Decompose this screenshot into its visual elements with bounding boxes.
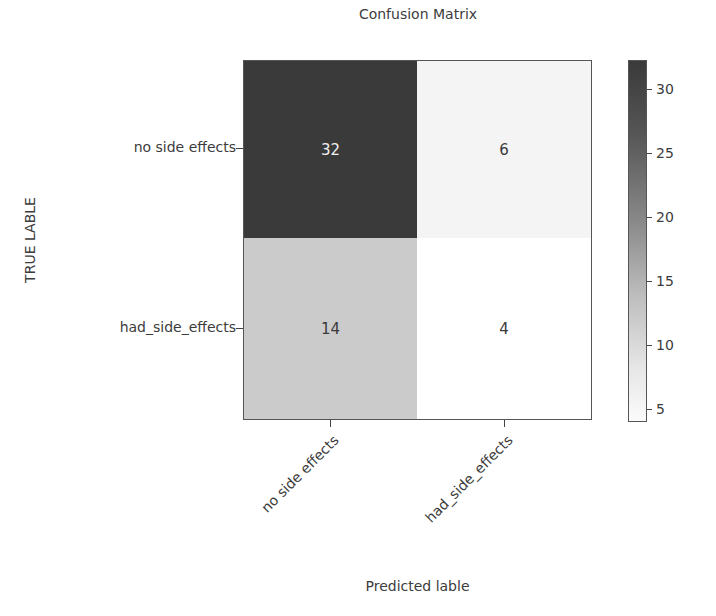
cell-value: 6 (499, 141, 509, 159)
colorbar-tick (647, 345, 652, 346)
colorbar-tick-label: 15 (656, 273, 674, 289)
colorbar-tick (647, 281, 652, 282)
colorbar-tick-label: 5 (656, 401, 665, 417)
chart-title: Confusion Matrix (243, 6, 593, 22)
x-tick (504, 420, 505, 427)
colorbar-tick-label: 10 (656, 337, 674, 353)
y-tick-label: no side effects (134, 139, 236, 155)
colorbar-tick-label: 25 (656, 145, 674, 161)
confusion-matrix: 32 6 14 4 (243, 60, 592, 420)
y-tick-label: had_side_effects (120, 319, 236, 335)
colorbar-tick (647, 409, 652, 410)
cell-value: 32 (321, 141, 340, 159)
cell-1-1: 4 (417, 238, 591, 419)
colorbar (628, 60, 647, 422)
y-axis-label: TRUE LABLE (22, 197, 38, 283)
colorbar-tick-label: 20 (656, 209, 674, 225)
cell-value: 14 (321, 320, 340, 338)
cell-1-0: 14 (244, 238, 417, 419)
cell-0-0: 32 (244, 61, 417, 238)
colorbar-tick (647, 153, 652, 154)
y-tick (236, 328, 243, 329)
x-tick-label: no side effects (258, 432, 342, 516)
cell-0-1: 6 (417, 61, 591, 238)
colorbar-tick (647, 217, 652, 218)
colorbar-tick-label: 30 (656, 81, 674, 97)
colorbar-tick (647, 89, 652, 90)
cell-value: 4 (499, 320, 509, 338)
x-tick-label: had_side_effects (422, 432, 516, 526)
x-tick (330, 420, 331, 427)
x-axis-label: Predicted lable (243, 578, 592, 594)
y-tick (236, 148, 243, 149)
